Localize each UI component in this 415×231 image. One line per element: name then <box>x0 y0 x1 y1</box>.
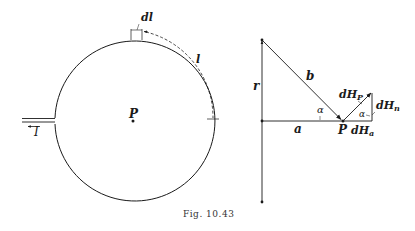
figure-canvas: I dl l P r b a α <box>0 0 415 231</box>
angle-alpha-label-2: α <box>359 109 365 119</box>
center-point-label: P <box>128 107 139 121</box>
distance-label: a <box>294 122 302 136</box>
dH-p-label: dHP <box>339 88 364 102</box>
angle-alpha-pointer-2 <box>366 115 370 116</box>
arc-length-dashed <box>146 32 213 118</box>
dH-n-pointer <box>372 112 375 115</box>
angle-alpha-label-1: α <box>317 104 324 115</box>
hypotenuse-label: b <box>306 69 314 83</box>
dl-label: dl <box>141 11 153 24</box>
dH-n-label: dHn <box>376 99 400 113</box>
current-loop-diagram: I dl l P <box>22 11 219 201</box>
arc-length-label: l <box>196 53 200 66</box>
arc-length-arrow-icon <box>144 32 148 33</box>
hypotenuse-b <box>262 40 341 120</box>
field-point-label: P <box>337 123 348 137</box>
current-label: I <box>33 125 39 139</box>
dl-element-marker <box>131 24 142 40</box>
figure-caption: Fig. 10.43 <box>183 209 234 219</box>
radius-label: r <box>253 79 261 93</box>
axis-bottom-point <box>261 201 264 204</box>
current-loop <box>55 41 215 201</box>
dH-a-label: dHa <box>351 124 374 138</box>
geometry-diagram: r b a α P dHa dHP dHn α <box>253 39 400 204</box>
